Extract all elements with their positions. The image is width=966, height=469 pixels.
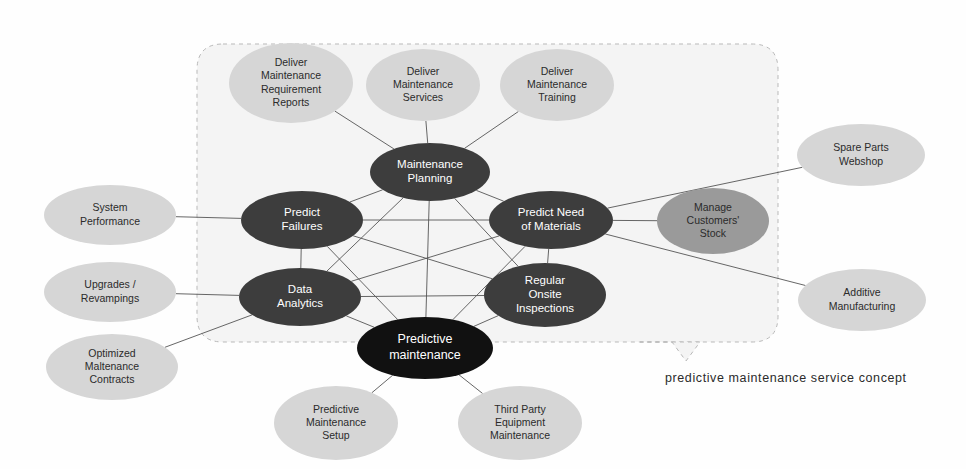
node-deliver_services[interactable] (366, 49, 480, 121)
boundary-callout-tail (640, 342, 700, 361)
node-third_party_equipment[interactable] (458, 386, 582, 460)
node-shape-onsite_inspections[interactable] (484, 263, 606, 327)
node-shape-spare_parts_webshop[interactable] (797, 124, 925, 186)
node-shape-predict_failures[interactable] (241, 191, 363, 249)
node-predictive_maintenance[interactable] (357, 317, 493, 379)
edge-predictive_maintenance-to-predictive_setup (372, 375, 393, 393)
node-deliver_reports[interactable] (229, 43, 353, 123)
node-shape-third_party_equipment[interactable] (458, 386, 582, 460)
diagram-caption: predictive maintenance service concept (665, 371, 907, 385)
node-upgrades_revampings[interactable] (44, 262, 176, 322)
node-spare_parts_webshop[interactable] (797, 124, 925, 186)
node-shape-data_analytics[interactable] (239, 268, 361, 326)
node-shape-optimized_contracts[interactable] (46, 334, 178, 400)
node-shape-predictive_maintenance[interactable] (357, 317, 493, 379)
node-deliver_training[interactable] (500, 49, 614, 121)
concept-diagram: DeliverMaintenanceRequirementReportsDeli… (0, 0, 966, 469)
node-shape-deliver_services[interactable] (366, 49, 480, 121)
node-shape-predict_materials[interactable] (489, 191, 613, 249)
node-optimized_contracts[interactable] (46, 334, 178, 400)
node-data_analytics[interactable] (239, 268, 361, 326)
node-additive_manufacturing[interactable] (798, 269, 926, 331)
node-shape-system_performance[interactable] (44, 185, 176, 245)
diagram-canvas: DeliverMaintenanceRequirementReportsDeli… (0, 0, 966, 469)
edge-predictive_maintenance-to-third_party_equipment (459, 375, 483, 394)
node-maintenance_planning[interactable] (370, 143, 490, 201)
node-onsite_inspections[interactable] (484, 263, 606, 327)
node-predict_materials[interactable] (489, 191, 613, 249)
node-predict_failures[interactable] (241, 191, 363, 249)
node-manage_customers_stock[interactable] (657, 188, 769, 254)
node-predictive_setup[interactable] (274, 386, 398, 460)
node-shape-predictive_setup[interactable] (274, 386, 398, 460)
node-shape-maintenance_planning[interactable] (370, 143, 490, 201)
node-shape-deliver_training[interactable] (500, 49, 614, 121)
node-shape-upgrades_revampings[interactable] (44, 262, 176, 322)
node-shape-manage_customers_stock[interactable] (657, 188, 769, 254)
node-shape-additive_manufacturing[interactable] (798, 269, 926, 331)
node-system_performance[interactable] (44, 185, 176, 245)
node-shape-deliver_reports[interactable] (229, 43, 353, 123)
